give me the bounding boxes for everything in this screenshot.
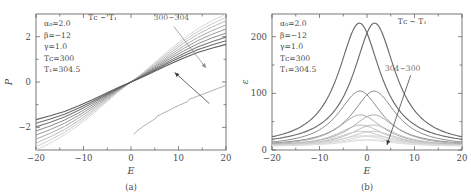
y-axis-label: ε bbox=[239, 79, 250, 84]
series-annotation: 300~304 bbox=[154, 13, 190, 22]
panel-a: −20−1001020−202EPα₀=2.0β=−12γ=1.0Tᴄ=300T… bbox=[0, 0, 236, 193]
parameter-text: Tᴄ=300 bbox=[44, 54, 74, 63]
data-curve-branch bbox=[134, 85, 226, 134]
y-tick-label: 0 bbox=[26, 77, 31, 87]
panel-caption: (a) bbox=[125, 182, 137, 192]
parameter-text: α₀=2.0 bbox=[280, 19, 307, 28]
figure-container: −20−1001020−202EPα₀=2.0β=−12γ=1.0Tᴄ=300T… bbox=[0, 0, 471, 193]
y-tick-label: 2 bbox=[26, 32, 31, 42]
x-tick-label: −20 bbox=[27, 153, 45, 163]
x-tick-label: 20 bbox=[221, 153, 232, 163]
y-tick-label: 100 bbox=[250, 88, 266, 98]
x-axis-label: E bbox=[362, 165, 370, 176]
parameter-text: β=−12 bbox=[44, 31, 71, 40]
x-tick-label: 0 bbox=[364, 153, 369, 163]
panel-a-plot: −20−1001020−202EPα₀=2.0β=−12γ=1.0Tᴄ=300T… bbox=[0, 0, 236, 193]
x-tick-label: 20 bbox=[456, 153, 467, 163]
y-tick-label: 0 bbox=[261, 145, 266, 155]
panel-b: −20−10010200100200Eεα₀=2.0β=−12γ=1.0Tᴄ=3… bbox=[236, 0, 471, 193]
data-curve bbox=[272, 23, 462, 139]
annotation-arrow-head bbox=[202, 63, 206, 68]
parameter-text: T₁=304.5 bbox=[44, 65, 80, 74]
parameter-text: γ=1.0 bbox=[44, 42, 67, 51]
parameter-text: β=−12 bbox=[280, 31, 307, 40]
y-axis-label: P bbox=[3, 78, 14, 86]
y-tick-label: −2 bbox=[18, 122, 31, 132]
parameter-text: α₀=2.0 bbox=[44, 19, 71, 28]
x-tick-label: 0 bbox=[128, 153, 133, 163]
data-curve bbox=[272, 23, 462, 139]
x-tick-label: −10 bbox=[310, 153, 328, 163]
y-tick-label: 200 bbox=[250, 32, 266, 42]
panel-b-plot: −20−10010200100200Eεα₀=2.0β=−12γ=1.0Tᴄ=3… bbox=[236, 0, 471, 193]
x-axis-label: E bbox=[127, 165, 135, 176]
parameter-text: Tᴄ=300 bbox=[280, 54, 310, 63]
x-tick-label: 10 bbox=[173, 153, 184, 163]
annotation-arrow bbox=[175, 72, 210, 103]
data-curve bbox=[272, 125, 462, 145]
temperature-note: Tᴄ ~ T₁ bbox=[88, 13, 117, 22]
panel-caption: (b) bbox=[360, 182, 372, 192]
temperature-note: Tᴄ ~ T₁ bbox=[397, 17, 426, 26]
x-tick-label: −10 bbox=[75, 153, 93, 163]
x-tick-label: 10 bbox=[409, 153, 420, 163]
series-annotation: 304~300 bbox=[384, 64, 420, 73]
parameter-text: γ=1.0 bbox=[280, 42, 303, 51]
data-curve bbox=[272, 125, 462, 145]
parameter-text: T₁=304.5 bbox=[280, 65, 316, 74]
